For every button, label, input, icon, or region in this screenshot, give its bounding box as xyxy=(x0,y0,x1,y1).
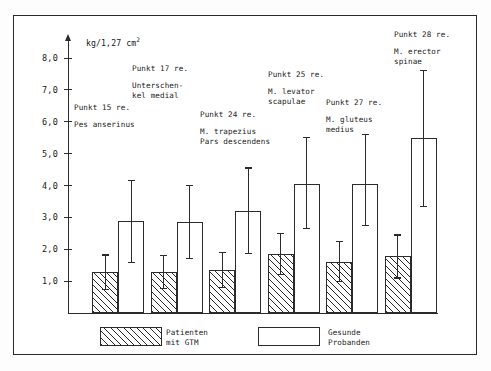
legend-swatch-patients xyxy=(100,327,162,346)
legend: Patienten mit GTMGesunde Probanden xyxy=(0,0,491,371)
figure-root: kg/1,27 cm2 1,02,03,04,05,06,07,08,0 Pun… xyxy=(0,0,491,371)
legend-label: Patienten mit GTM xyxy=(166,328,208,348)
legend-swatch-healthy xyxy=(258,327,320,346)
legend-label: Gesunde Probanden xyxy=(328,328,370,348)
